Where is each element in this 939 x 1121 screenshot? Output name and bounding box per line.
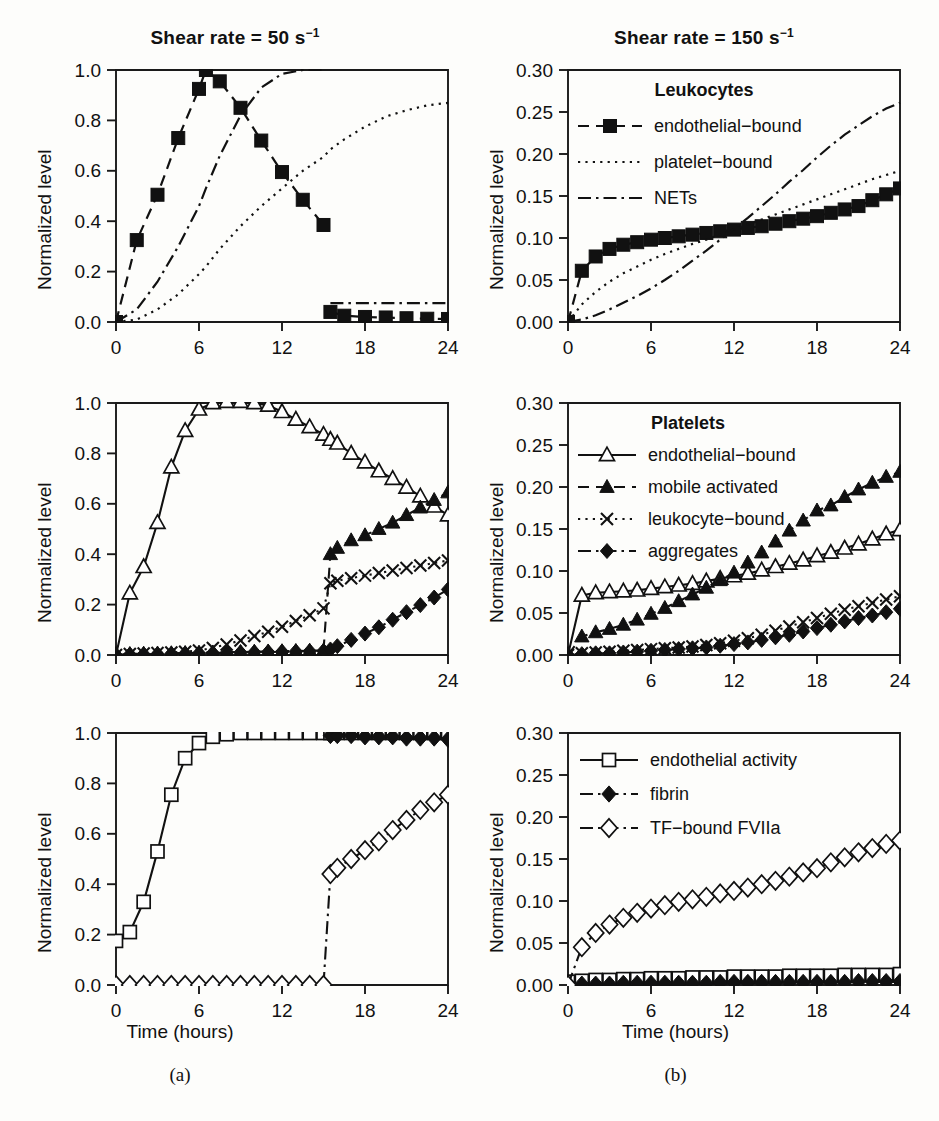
svg-text:12: 12 <box>271 1000 292 1021</box>
svg-text:12: 12 <box>723 1000 744 1021</box>
panel-a-bottom: Normalized level 0.00.20.40.60.81.006121… <box>0 660 470 1060</box>
svg-text:0.15: 0.15 <box>516 519 553 540</box>
svg-text:0.05: 0.05 <box>516 270 553 291</box>
svg-text:0.20: 0.20 <box>516 144 553 165</box>
svg-text:0.30: 0.30 <box>516 60 553 81</box>
plot-b-bottom: 0.000.050.100.150.200.250.3006121824endo… <box>452 660 939 1060</box>
svg-text:leukocyte−bound: leukocyte−bound <box>648 509 785 529</box>
axis-label-y-b-top: Normalized level <box>486 150 508 290</box>
svg-text:0.15: 0.15 <box>516 186 553 207</box>
svg-text:0.4: 0.4 <box>75 211 102 232</box>
axis-label-y-b-bottom: Normalized level <box>486 813 508 953</box>
svg-text:0.05: 0.05 <box>516 603 553 624</box>
svg-text:0.10: 0.10 <box>516 561 553 582</box>
subcaption-b: (b) <box>432 1064 919 1086</box>
svg-text:6: 6 <box>194 1000 205 1021</box>
svg-text:0.10: 0.10 <box>516 891 553 912</box>
svg-text:0.4: 0.4 <box>75 874 102 895</box>
svg-text:0.05: 0.05 <box>516 933 553 954</box>
svg-text:0.00: 0.00 <box>516 975 553 996</box>
svg-text:0.2: 0.2 <box>75 594 101 615</box>
svg-text:0: 0 <box>563 1000 574 1021</box>
axis-label-y-a-bottom: Normalized level <box>34 813 56 953</box>
axis-label-x-a: Time (hours) <box>0 1021 415 1043</box>
svg-text:0.2: 0.2 <box>75 924 101 945</box>
svg-text:endothelial activity: endothelial activity <box>650 750 797 770</box>
svg-text:0.30: 0.30 <box>516 723 553 744</box>
svg-text:0.0: 0.0 <box>75 975 101 996</box>
svg-text:0.6: 0.6 <box>75 823 101 844</box>
plot-a-middle: 0.00.20.40.60.81.006121824 <box>0 330 470 690</box>
svg-text:0.20: 0.20 <box>516 477 553 498</box>
svg-text:0.20: 0.20 <box>516 807 553 828</box>
svg-text:fibrin: fibrin <box>650 784 689 804</box>
svg-text:NETs: NETs <box>654 188 697 208</box>
axis-label-y-a-top: Normalized level <box>34 150 56 290</box>
svg-text:6: 6 <box>646 1000 657 1021</box>
svg-text:18: 18 <box>354 1000 375 1021</box>
figure-root: Shear rate = 50 s−1 Shear rate = 150 s−1… <box>0 0 939 1121</box>
axis-label-x-b: Time (hours) <box>432 1021 919 1043</box>
axis-label-y-b-middle: Normalized level <box>486 483 508 623</box>
panel-b-bottom: Normalized level 0.000.050.100.150.200.2… <box>452 660 939 1060</box>
svg-text:0.25: 0.25 <box>516 102 553 123</box>
svg-text:endothelial−bound: endothelial−bound <box>648 445 796 465</box>
svg-text:0.30: 0.30 <box>516 393 553 414</box>
svg-text:0.6: 0.6 <box>75 493 101 514</box>
panel-a-middle: Normalized level 0.00.20.40.60.81.006121… <box>0 330 470 690</box>
svg-text:TF−bound FVIIa: TF−bound FVIIa <box>650 818 782 838</box>
plot-b-top: 0.000.050.100.150.200.250.3006121824Leuk… <box>452 0 939 360</box>
svg-text:1.0: 1.0 <box>75 60 101 81</box>
plot-b-middle: 0.000.050.100.150.200.250.3006121824Plat… <box>452 330 939 690</box>
plot-a-top: 0.00.20.40.60.81.006121824 <box>0 0 470 360</box>
svg-text:platelet−bound: platelet−bound <box>654 152 773 172</box>
svg-text:0.2: 0.2 <box>75 261 101 282</box>
panel-b-middle: Normalized level 0.000.050.100.150.200.2… <box>452 330 939 690</box>
svg-text:mobile activated: mobile activated <box>648 477 778 497</box>
svg-text:0.8: 0.8 <box>75 110 101 131</box>
svg-text:0.15: 0.15 <box>516 849 553 870</box>
axis-label-y-a-middle: Normalized level <box>34 483 56 623</box>
svg-text:0.8: 0.8 <box>75 443 101 464</box>
subcaption-a: (a) <box>0 1064 415 1086</box>
svg-text:0.25: 0.25 <box>516 765 553 786</box>
svg-text:0: 0 <box>111 1000 122 1021</box>
svg-text:aggregates: aggregates <box>648 541 738 561</box>
svg-text:Leukocytes: Leukocytes <box>654 80 753 100</box>
svg-text:Platelets: Platelets <box>651 413 725 433</box>
panel-b-top: Normalized level 0.000.050.100.150.200.2… <box>452 0 939 360</box>
svg-text:endothelial−bound: endothelial−bound <box>654 116 802 136</box>
svg-text:0.6: 0.6 <box>75 160 101 181</box>
svg-text:18: 18 <box>806 1000 827 1021</box>
svg-text:1.0: 1.0 <box>75 393 101 414</box>
svg-text:24: 24 <box>889 1000 911 1021</box>
panel-a-top: Normalized level 0.00.20.40.60.81.006121… <box>0 0 470 360</box>
svg-text:1.0: 1.0 <box>75 723 101 744</box>
plot-a-bottom: 0.00.20.40.60.81.006121824 <box>0 660 470 1060</box>
svg-text:0.10: 0.10 <box>516 228 553 249</box>
svg-text:0.4: 0.4 <box>75 544 102 565</box>
svg-text:0.8: 0.8 <box>75 773 101 794</box>
svg-text:0.25: 0.25 <box>516 435 553 456</box>
